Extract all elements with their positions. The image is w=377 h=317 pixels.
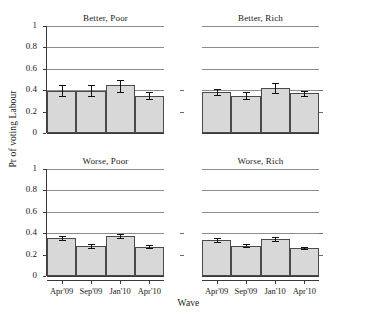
error-bar	[62, 85, 63, 95]
x-axis-title: Wave	[0, 298, 377, 308]
x-axis-tick	[304, 281, 305, 284]
error-bar-cap-lower	[146, 99, 153, 100]
y-axis-tick-label: 0.8	[5, 184, 37, 194]
panel-edge-tick	[180, 233, 184, 234]
y-axis-tick	[43, 90, 46, 91]
error-bar-cap-lower	[146, 248, 153, 249]
plot-area	[47, 169, 164, 276]
error-bar-cap-upper	[59, 236, 66, 237]
gridline	[202, 69, 319, 70]
panel-edge-tick	[319, 90, 323, 91]
error-bar-cap-lower	[243, 247, 250, 248]
y-axis-tick	[43, 276, 46, 277]
y-axis-tick-label: 0.2	[5, 249, 37, 259]
error-bar-cap-lower	[243, 99, 250, 100]
x-axis-tick	[120, 281, 121, 284]
error-bar-cap-upper	[88, 85, 95, 86]
y-axis-tick-label: 0	[5, 127, 37, 137]
bar	[290, 93, 319, 133]
y-axis-tick	[43, 212, 46, 213]
panel-baseline	[47, 133, 164, 134]
panel-better-poor: Better, Poor	[47, 26, 164, 133]
gridline	[47, 212, 164, 213]
bar-chart-figure: Pr of voting Labour Wave Better, PoorBet…	[0, 0, 377, 317]
error-bar-cap-lower	[214, 242, 221, 243]
error-bar	[120, 80, 121, 92]
y-axis-tick	[43, 47, 46, 48]
x-axis-spine	[202, 280, 319, 281]
gridline	[202, 47, 319, 48]
error-bar-cap-upper	[214, 238, 221, 239]
panel-title: Worse, Rich	[202, 156, 319, 166]
gridline	[47, 47, 164, 48]
bar	[261, 88, 290, 133]
bar	[202, 92, 231, 133]
panel-edge-tick	[180, 90, 184, 91]
panel-worse-rich: Worse, Rich	[202, 169, 319, 276]
y-axis-tick	[43, 190, 46, 191]
error-bar-cap-upper	[59, 85, 66, 86]
x-axis-tick	[149, 281, 150, 284]
x-axis-tick-label: Apr'10	[127, 286, 171, 296]
gridline	[202, 190, 319, 191]
y-axis-spine	[46, 169, 47, 276]
error-bar	[246, 92, 247, 99]
x-axis-tick	[275, 281, 276, 284]
error-bar	[149, 92, 150, 99]
x-axis-spine	[47, 280, 164, 281]
y-axis-tick	[43, 112, 46, 113]
y-axis-tick	[43, 26, 46, 27]
panel-edge-tick	[319, 233, 323, 234]
x-axis-tick	[246, 281, 247, 284]
panel-baseline	[202, 276, 319, 277]
plot-area	[202, 26, 319, 133]
error-bar-cap-lower	[301, 96, 308, 97]
gridline	[47, 26, 164, 27]
x-axis-tick	[62, 281, 63, 284]
gridline	[202, 169, 319, 170]
panel-baseline	[202, 133, 319, 134]
gridline	[47, 169, 164, 170]
y-axis-tick-label: 0.8	[5, 41, 37, 51]
error-bar-cap-lower	[272, 93, 279, 94]
y-axis-tick-label: 0	[5, 270, 37, 280]
bar	[135, 96, 164, 133]
x-axis-tick-label: Apr'10	[282, 286, 326, 296]
gridline	[47, 190, 164, 191]
error-bar-cap-upper	[301, 91, 308, 92]
error-bar-cap-lower	[214, 95, 221, 96]
error-bar-cap-lower	[59, 96, 66, 97]
panel-edge-tick	[180, 112, 184, 113]
bar	[231, 96, 260, 133]
bar	[135, 247, 164, 276]
gridline	[47, 69, 164, 70]
x-axis-tick	[217, 281, 218, 284]
bar	[47, 238, 76, 276]
panel-baseline	[47, 276, 164, 277]
y-axis-tick	[43, 169, 46, 170]
y-axis-tick-label: 0.6	[5, 63, 37, 73]
error-bar	[275, 83, 276, 93]
error-bar-cap-upper	[214, 89, 221, 90]
bar	[76, 91, 105, 133]
bar	[290, 248, 319, 276]
gridline	[202, 233, 319, 234]
gridline	[202, 212, 319, 213]
error-bar-cap-lower	[272, 241, 279, 242]
error-bar-cap-upper	[117, 234, 124, 235]
bar	[202, 240, 231, 276]
error-bar-cap-upper	[243, 92, 250, 93]
bar	[76, 246, 105, 276]
error-bar-cap-upper	[146, 245, 153, 246]
y-axis-tick	[43, 133, 46, 134]
panel-edge-tick	[319, 112, 323, 113]
x-axis-tick	[91, 281, 92, 284]
error-bar-cap-lower	[88, 96, 95, 97]
bar	[231, 246, 260, 276]
y-axis-tick	[43, 233, 46, 234]
y-axis-tick	[43, 69, 46, 70]
y-axis-tick-label: 0.6	[5, 206, 37, 216]
panel-better-rich: Better, Rich	[202, 26, 319, 133]
y-axis-tick-label: 1	[5, 163, 37, 173]
y-axis-tick	[43, 255, 46, 256]
